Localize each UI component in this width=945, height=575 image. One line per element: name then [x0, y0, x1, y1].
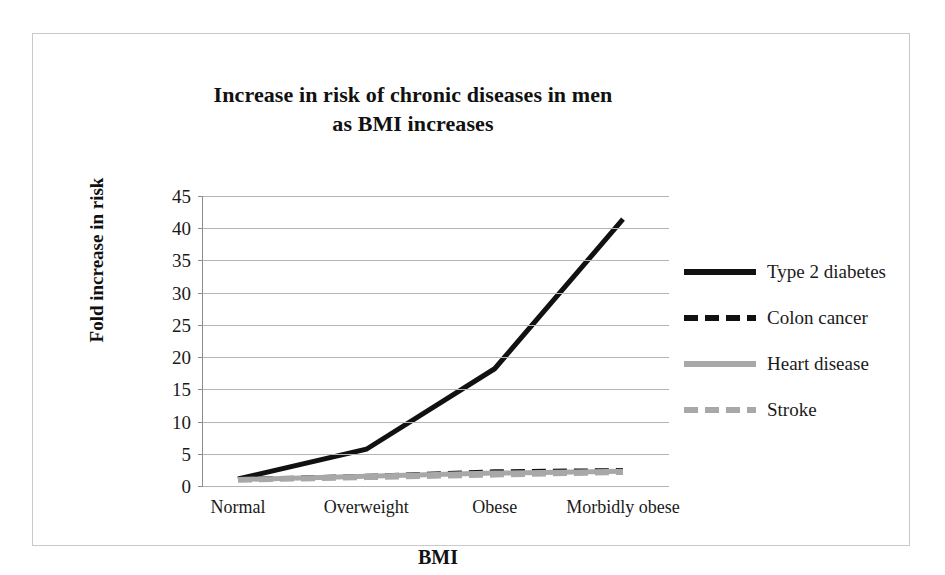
gridline: [203, 196, 669, 197]
x-axis-tick-label: Obese: [435, 497, 555, 518]
y-axis-tick-mark: [198, 293, 203, 294]
y-axis-tick-mark: [198, 486, 203, 487]
chart-frame: Increase in risk of chronic diseases in …: [32, 33, 910, 546]
y-axis-tick-label: 30: [139, 284, 191, 303]
legend-label: Heart disease: [767, 353, 869, 375]
legend-swatch: [683, 357, 757, 371]
chart-title: Increase in risk of chronic diseases in …: [133, 80, 693, 138]
y-axis-title: Fold increase in risk: [86, 130, 108, 390]
gridline: [203, 389, 669, 390]
y-axis-tick-label: 45: [139, 187, 191, 206]
y-axis-tick-label: 0: [139, 477, 191, 496]
y-axis-tick-mark: [198, 422, 203, 423]
gridline: [203, 260, 669, 261]
y-axis-tick-mark: [198, 196, 203, 197]
y-axis-tick-mark: [198, 454, 203, 455]
legend-swatch: [683, 265, 757, 279]
y-axis-tick-mark: [198, 260, 203, 261]
gridline: [203, 293, 669, 294]
chart-legend: Type 2 diabetesColon cancerHeart disease…: [683, 249, 933, 433]
chart-title-line-1: Increase in risk of chronic diseases in …: [214, 82, 613, 107]
legend-swatch: [683, 403, 757, 417]
legend-label: Type 2 diabetes: [767, 261, 886, 283]
x-axis-tick-label: Morbidly obese: [563, 497, 683, 518]
x-axis-title: BMI: [303, 546, 573, 569]
y-axis-tick-mark: [198, 357, 203, 358]
series-lines: [203, 196, 669, 486]
gridline: [203, 486, 669, 487]
y-axis-tick-mark: [198, 389, 203, 390]
y-axis-tick-labels: 051015202530354045: [139, 184, 191, 510]
x-axis-tick-label: Overweight: [306, 497, 426, 518]
gridline: [203, 325, 669, 326]
x-axis-tick-labels: NormalOverweightObeseMorbidly obese: [203, 497, 669, 547]
series-line: [238, 219, 623, 479]
gridline: [203, 357, 669, 358]
gridline: [203, 228, 669, 229]
legend-item[interactable]: Type 2 diabetes: [683, 249, 933, 295]
y-axis-tick-mark: [198, 228, 203, 229]
y-axis-tick-label: 10: [139, 413, 191, 432]
chart-figure: Increase in risk of chronic diseases in …: [0, 0, 945, 575]
y-axis-tick-label: 40: [139, 219, 191, 238]
legend-item[interactable]: Colon cancer: [683, 295, 933, 341]
y-axis-tick-label: 35: [139, 251, 191, 270]
legend-item[interactable]: Stroke: [683, 387, 933, 433]
plot-area: [203, 196, 669, 486]
legend-label: Colon cancer: [767, 307, 868, 329]
y-axis-tick-label: 20: [139, 348, 191, 367]
legend-item[interactable]: Heart disease: [683, 341, 933, 387]
y-axis-tick-mark: [198, 325, 203, 326]
x-axis-tick-label: Normal: [178, 497, 298, 518]
gridline: [203, 454, 669, 455]
legend-swatch: [683, 311, 757, 325]
y-axis-tick-label: 5: [139, 445, 191, 464]
chart-title-line-2: as BMI increases: [133, 109, 693, 138]
y-axis-tick-label: 15: [139, 380, 191, 399]
y-axis-tick-label: 25: [139, 316, 191, 335]
gridline: [203, 422, 669, 423]
legend-label: Stroke: [767, 399, 817, 421]
